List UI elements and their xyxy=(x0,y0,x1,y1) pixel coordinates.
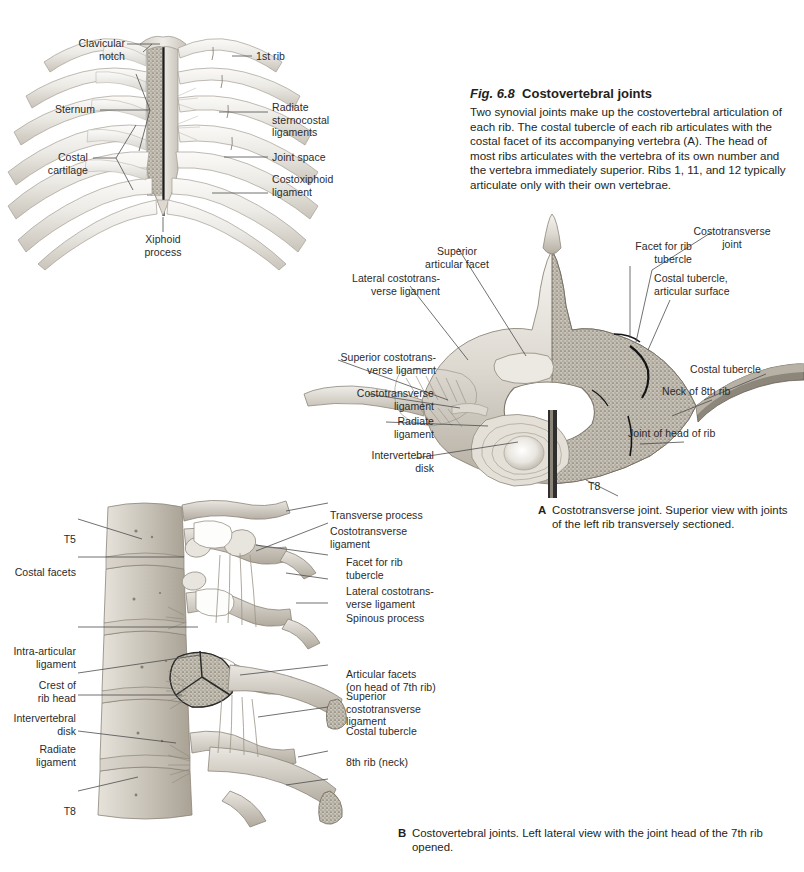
label-costal-tubercle-articular-surface: Costal tubercle, articular surface xyxy=(654,272,784,297)
figure-title-text: Costovertebral joints xyxy=(522,86,652,101)
label-t5: T5 xyxy=(40,533,76,546)
panel-b-caption-text: Costovertebral joints. Left lateral view… xyxy=(412,826,788,855)
label-superior-costotransverse-ligament-b: Superior costotransverse ligament xyxy=(346,690,458,728)
figure-page: Clavicular notch Sternum Costal cartilag… xyxy=(0,0,804,872)
panel-b-illustration xyxy=(90,495,350,835)
label-crest-of-rib-head: Crest of rib head xyxy=(14,679,76,704)
panel-a-tag: A xyxy=(538,503,546,517)
label-intra-articular-ligament: Intra-articular ligament xyxy=(2,645,76,670)
label-costal-cartilage: Costal cartilage xyxy=(20,151,88,176)
label-lateral-costotransverse-ligament-a: Lateral costotrans- verse ligament xyxy=(330,272,440,297)
label-clavicular-notch: Clavicular notch xyxy=(37,37,125,62)
label-1st-rib: 1st rib xyxy=(256,50,346,63)
label-joint-space: Joint space xyxy=(272,151,362,164)
figure-title: Fig. 6.8 Costovertebral joints xyxy=(470,86,790,102)
label-facet-for-rib-tubercle-b: Facet for rib tubercle xyxy=(346,556,442,581)
panel-b-tag: B xyxy=(398,826,406,840)
label-intervertebral-disk-a: Intervertebral disk xyxy=(328,449,434,474)
panel-b-caption: B Costovertebral joints. Left lateral vi… xyxy=(398,826,788,855)
figure-description: Two synovial joints make up the costover… xyxy=(470,105,792,193)
label-radiate-ligament-a: Radiate ligament xyxy=(346,415,434,440)
label-intervertebral-disk-b: Intervertebral disk xyxy=(2,712,76,737)
label-costoxiphoid-ligament: Costoxiphoid ligament xyxy=(272,173,372,198)
label-costal-tubercle-b: Costal tubercle xyxy=(346,725,446,738)
label-superior-costotransverse-ligament-a: Superior costotrans- verse ligament xyxy=(312,351,436,376)
label-t8-panel-b: T8 xyxy=(44,805,76,818)
label-xiphoid-process: Xiphoid process xyxy=(127,233,199,258)
label-t8-panel-a: T8 xyxy=(588,480,618,493)
label-joint-of-head-of-rib: Joint of head of rib xyxy=(628,427,758,440)
label-sternum: Sternum xyxy=(20,103,95,116)
label-costotransverse-ligament-a: Costotransverse ligament xyxy=(330,387,434,412)
panel-a-caption-text: Costotransverse joint. Superior view wit… xyxy=(552,503,798,532)
label-spinous-process: Spinous process xyxy=(346,612,456,625)
label-costal-tubercle-a: Costal tubercle xyxy=(690,363,790,376)
label-radiate-ligament-b: Radiate ligament xyxy=(14,743,76,768)
label-8th-rib-neck: 8th rib (neck) xyxy=(346,756,446,769)
label-superior-articular-facet: Superior articular facet xyxy=(402,245,512,270)
label-neck-of-8th-rib: Neck of 8th rib xyxy=(662,385,772,398)
label-transverse-process: Transverse process xyxy=(330,509,450,522)
figure-number: Fig. 6.8 xyxy=(470,86,515,101)
panel-a-caption: A Costotransverse joint. Superior view w… xyxy=(538,503,798,532)
label-lateral-costotransverse-ligament-b: Lateral costotrans- verse ligament xyxy=(346,585,462,610)
label-facet-for-rib-tubercle-a: Facet for rib tubercle xyxy=(600,240,692,265)
label-costal-facets: Costal facets xyxy=(10,566,76,579)
label-radiate-sternocostal-ligaments: Radiate sternocostal ligaments xyxy=(272,101,382,139)
label-costotransverse-joint: Costotransverse joint xyxy=(680,225,784,250)
label-costotransverse-ligament-b: Costotransverse ligament xyxy=(330,525,434,550)
